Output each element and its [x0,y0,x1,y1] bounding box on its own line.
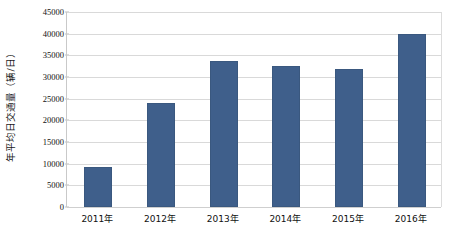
y-tick-label-0: 0 [18,202,64,212]
gridline-0 [67,207,441,208]
y-tick-label-40000: 40000 [18,29,64,39]
bar-2015年 [335,69,363,207]
y-tick-label-15000: 15000 [18,137,64,147]
bar-2016年 [398,34,426,207]
x-tick-label-2011年: 2011年 [81,212,113,225]
x-axis-tick-labels: 2011年2012年2013年2014年2015年2016年 [66,210,442,232]
bar-chart: 年平均日交通量（辆/日） 050001000015000200002500030… [0,0,455,244]
x-tick-label-2014年: 2014年 [269,212,301,225]
bar-2011年 [84,167,112,207]
y-tick-label-35000: 35000 [18,50,64,60]
bars-layer [67,12,441,207]
y-tick-label-30000: 30000 [18,72,64,82]
y-tick-label-20000: 20000 [18,115,64,125]
plot-area [66,12,442,207]
y-tick-label-45000: 45000 [18,7,64,17]
y-axis-tick-labels: 0500010000150002000025000300003500040000… [14,12,64,207]
x-tick-label-2016年: 2016年 [395,212,427,225]
x-tick-label-2013年: 2013年 [207,212,239,225]
bar-2012年 [147,103,175,207]
x-tick-label-2015年: 2015年 [332,212,364,225]
y-tick-label-5000: 5000 [18,180,64,190]
bar-2013年 [210,61,238,207]
x-tick-label-2012年: 2012年 [144,212,176,225]
y-tick-label-25000: 25000 [18,94,64,104]
bar-2014年 [272,66,300,207]
y-tick-label-10000: 10000 [18,159,64,169]
